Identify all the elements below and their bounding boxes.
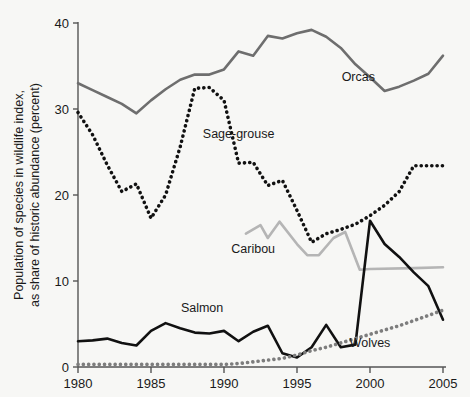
y-tick-label-0: 0: [62, 360, 69, 375]
x-tick-label-2005: 2005: [429, 376, 458, 391]
x-tick-label-1990: 1990: [210, 376, 239, 391]
series-label-wolves: Wolves: [350, 336, 391, 350]
chart-canvas: 010203040198019851990199520002005 OrcasS…: [0, 0, 470, 397]
y-tick-label-30: 30: [55, 102, 69, 117]
y-tick-label-10: 10: [55, 274, 69, 289]
y-tick-label-20: 20: [55, 188, 69, 203]
y-axis-title-line-2: as share of historic abundance (percent): [28, 83, 42, 307]
wildlife-index-line-chart: 010203040198019851990199520002005 OrcasS…: [0, 0, 470, 397]
x-tick-label-1985: 1985: [137, 376, 166, 391]
series-label-orcas: Orcas: [342, 70, 375, 84]
y-tick-label-40: 40: [55, 16, 69, 31]
series-label-sage-grouse: Sage-grouse: [203, 127, 275, 141]
x-tick-label-1980: 1980: [64, 376, 93, 391]
y-axis-title-line-1: Population of species in wildlife index,: [12, 90, 26, 300]
x-tick-label-2000: 2000: [356, 376, 385, 391]
x-tick-label-1995: 1995: [283, 376, 312, 391]
series-label-salmon: Salmon: [181, 301, 223, 315]
series-label-caribou: Caribou: [231, 242, 275, 256]
